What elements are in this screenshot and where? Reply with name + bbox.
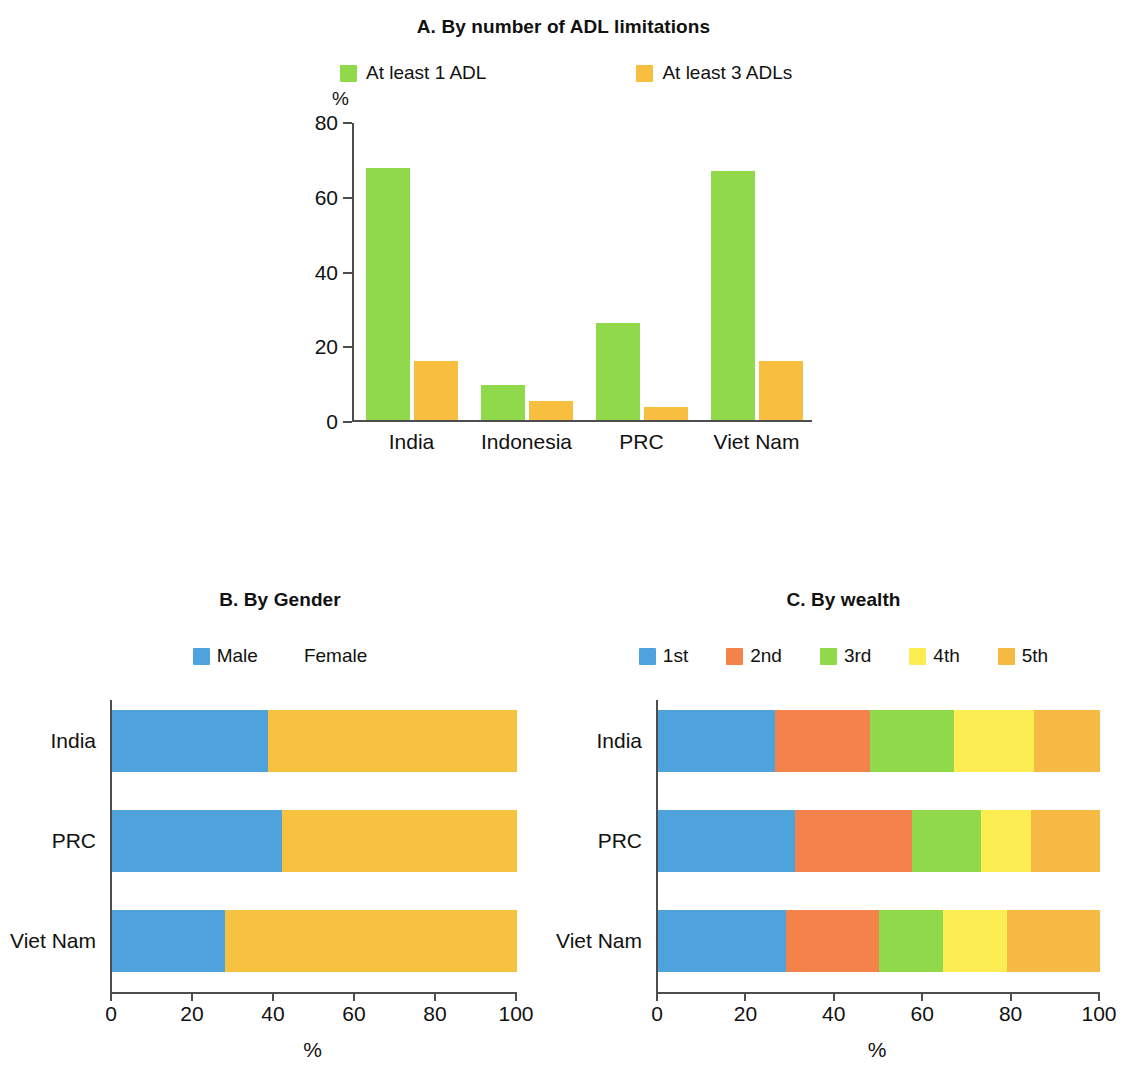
x-tick-mark [353, 992, 355, 1001]
panel-a-adl-limitations: A. By number of ADL limitations At least… [0, 0, 1127, 500]
bar-segment[interactable] [954, 710, 1034, 772]
bar-segment[interactable] [112, 710, 268, 772]
y-tick-mark [343, 197, 352, 199]
bar-segment[interactable] [1031, 810, 1100, 872]
y-tick-label: 80 [315, 111, 338, 135]
panel-a-plot: 020406080 IndiaIndonesiaPRCViet Nam [352, 123, 812, 422]
panel-c-plot: 020406080100 IndiaPRCViet Nam [656, 700, 1098, 992]
x-tick-mark [833, 992, 835, 1001]
bar-segment[interactable] [1007, 910, 1100, 972]
bar-segment[interactable] [775, 710, 870, 772]
bar[interactable] [711, 171, 755, 420]
bar-segment[interactable] [1034, 710, 1100, 772]
stacked-bar-india [658, 710, 1100, 772]
y-category-label: Viet Nam [556, 929, 642, 953]
bar[interactable] [481, 385, 525, 420]
bar-segment[interactable] [112, 910, 225, 972]
bar-segment[interactable] [658, 710, 775, 772]
legend-swatch-icon [193, 648, 210, 665]
y-tick-label: 60 [315, 186, 338, 210]
bar-segment[interactable] [870, 710, 954, 772]
y-category-label: PRC [52, 829, 96, 853]
x-tick-mark [272, 992, 274, 1001]
bar-group-viet-nam [711, 123, 803, 420]
bar[interactable] [414, 361, 458, 420]
panel-b-x-axis [110, 992, 517, 994]
stacked-bar-viet-nam [658, 910, 1100, 972]
bar-group-prc [596, 123, 688, 420]
bar-segment[interactable] [658, 910, 786, 972]
legend-item-female[interactable]: Female [280, 645, 367, 667]
panel-b-x-unit: % [110, 1038, 515, 1062]
panel-a-y-unit: % [332, 88, 349, 110]
legend-item-male[interactable]: Male [193, 645, 258, 667]
y-tick-mark [343, 421, 352, 423]
stacked-bar-india [112, 710, 517, 772]
stacked-bar-prc [658, 810, 1100, 872]
bar-segment[interactable] [943, 910, 1007, 972]
x-tick-mark [1098, 992, 1100, 1001]
legend-swatch-icon [909, 648, 926, 665]
bar-segment[interactable] [879, 910, 943, 972]
x-tick-mark [434, 992, 436, 1001]
x-category-label: Viet Nam [714, 430, 800, 454]
bar-segment[interactable] [225, 910, 517, 972]
x-tick-mark [110, 992, 112, 1001]
x-tick-mark [656, 992, 658, 1001]
y-category-label: India [596, 729, 642, 753]
legend-swatch-icon [639, 648, 656, 665]
y-category-label: Viet Nam [10, 929, 96, 953]
x-tick-mark [1010, 992, 1012, 1001]
bar[interactable] [596, 323, 640, 420]
bar[interactable] [644, 407, 688, 420]
bar-group-india [366, 123, 458, 420]
legend-item-at-least-1-adl[interactable]: At least 1 ADL [340, 62, 486, 84]
panel-a-title: A. By number of ADL limitations [0, 16, 1127, 38]
x-tick-label: 100 [498, 1002, 533, 1026]
panel-b-by-gender: B. By Gender MaleFemale 020406080100 Ind… [0, 575, 560, 1069]
legend-item-at-least-3-adls[interactable]: At least 3 ADLs [636, 62, 792, 84]
bar-segment[interactable] [658, 810, 795, 872]
panel-b-title: B. By Gender [0, 589, 560, 611]
x-tick-label: 80 [423, 1002, 446, 1026]
legend-item-4th[interactable]: 4th [909, 645, 959, 667]
bar-segment[interactable] [981, 810, 1032, 872]
legend-swatch-icon [636, 65, 653, 82]
panel-c-by-wealth: C. By wealth 1st2nd3rd4th5th 02040608010… [560, 575, 1127, 1069]
x-tick-label: 40 [822, 1002, 845, 1026]
legend-swatch-icon [820, 648, 837, 665]
legend-label: 1st [663, 645, 688, 667]
bar-segment[interactable] [912, 810, 981, 872]
legend-swatch-icon [280, 648, 297, 665]
legend-label: 2nd [750, 645, 782, 667]
x-tick-label: 100 [1081, 1002, 1116, 1026]
x-tick-label: 20 [734, 1002, 757, 1026]
y-tick-mark [343, 272, 352, 274]
legend-label: At least 3 ADLs [662, 62, 792, 84]
bar-segment[interactable] [282, 810, 517, 872]
bar-group-indonesia [481, 123, 573, 420]
bar[interactable] [366, 168, 410, 420]
x-tick-label: 60 [911, 1002, 934, 1026]
panel-b-plot: 020406080100 IndiaPRCViet Nam [110, 700, 515, 992]
y-tick-label: 20 [315, 335, 338, 359]
bar-segment[interactable] [795, 810, 912, 872]
bar-segment[interactable] [268, 710, 517, 772]
legend-swatch-icon [726, 648, 743, 665]
x-tick-label: 40 [261, 1002, 284, 1026]
y-tick-label: 0 [326, 410, 338, 434]
panel-c-legend: 1st2nd3rd4th5th [560, 645, 1127, 667]
bar-segment[interactable] [786, 910, 879, 972]
legend-item-5th[interactable]: 5th [998, 645, 1048, 667]
bar[interactable] [529, 401, 573, 420]
legend-label: 3rd [844, 645, 871, 667]
stacked-bar-viet-nam [112, 910, 517, 972]
legend-item-1st[interactable]: 1st [639, 645, 688, 667]
bar-segment[interactable] [112, 810, 282, 872]
bar[interactable] [759, 361, 803, 420]
legend-item-3rd[interactable]: 3rd [820, 645, 871, 667]
x-tick-label: 0 [651, 1002, 663, 1026]
x-tick-mark [744, 992, 746, 1001]
legend-item-2nd[interactable]: 2nd [726, 645, 782, 667]
legend-label: Male [217, 645, 258, 667]
